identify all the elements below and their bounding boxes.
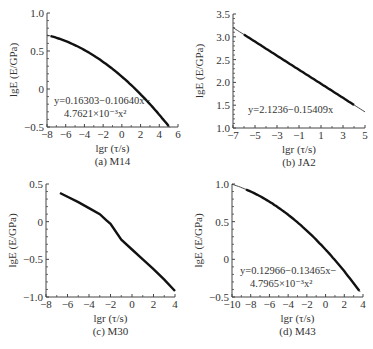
x-tick-label: −8 — [245, 298, 257, 310]
y-tick-label: −0.5 — [209, 291, 229, 303]
x-tick-label: 0 — [119, 128, 125, 140]
y-tick-label: 1.0 — [215, 178, 229, 190]
x-tick-label: 4 — [360, 298, 366, 310]
y-tick-label: 1.0 — [216, 122, 230, 134]
y-tick-label: 0.5 — [29, 178, 43, 190]
x-axis-label: lgr (τ/s) — [282, 143, 316, 156]
y-tick-label: 2.5 — [216, 54, 230, 66]
y-tick-label: 0 — [39, 83, 45, 95]
x-tick-label: −2 — [105, 298, 117, 310]
y-tick-label: 3.5 — [216, 8, 230, 20]
y-tick-label: 0 — [224, 253, 230, 265]
x-tick-label: 6 — [175, 128, 181, 140]
x-tick-label: 3 — [340, 129, 346, 141]
x-tick-label: −4 — [83, 298, 95, 310]
panel-caption: (c) M30 — [93, 325, 129, 338]
y-tick-label: 0 — [38, 216, 44, 228]
x-tick-label: 4 — [172, 298, 178, 310]
panel-caption: (d) M43 — [279, 325, 316, 338]
y-axis-label: lgE (E/GPa) — [6, 213, 19, 267]
x-tick-label: −6 — [62, 298, 74, 310]
x-tick-label: −1 — [293, 129, 305, 141]
panel-b: −7−5−3−11351.01.52.02.53.03.5y=2.1236−0.… — [193, 8, 368, 169]
x-tick-label: 4 — [157, 128, 163, 140]
panel-caption: (b) JA2 — [282, 156, 315, 169]
panel-c: −8−6−4−2024−1.0−0.500.5lgr (τ/s)(c) M30l… — [6, 178, 178, 338]
fit-equation: y=0.12966−0.13465x− — [240, 265, 337, 276]
x-tick-label: 5 — [362, 129, 368, 141]
x-tick-label: 2 — [151, 298, 157, 310]
y-tick-label: 1.5 — [216, 99, 230, 111]
x-tick-label: −2 — [301, 298, 313, 310]
x-tick-label: 1 — [318, 129, 324, 141]
data-series — [244, 35, 354, 105]
x-tick-label: −3 — [271, 129, 283, 141]
x-tick-label: −5 — [249, 129, 261, 141]
x-tick-label: −4 — [282, 298, 294, 310]
data-series — [60, 193, 175, 291]
panel-a: −8−6−4−20246−0.500.51.0y=0.16303−0.10640… — [7, 7, 181, 168]
y-tick-label: 0.5 — [30, 45, 44, 57]
y-tick-label: 1.0 — [30, 7, 44, 19]
x-axis-label: lgr (τ/s) — [280, 312, 314, 325]
x-tick-label: 0 — [129, 298, 135, 310]
x-tick-label: −6 — [264, 298, 276, 310]
y-tick-label: −1.0 — [23, 291, 43, 303]
fit-equation: y=2.1236−0.15409x — [248, 104, 334, 115]
x-tick-label: 0 — [323, 298, 329, 310]
y-tick-label: 0.5 — [215, 216, 229, 228]
y-tick-label: 2.0 — [216, 76, 230, 88]
fit-equation: y=0.16303−0.10640x− — [54, 95, 151, 106]
y-tick-label: −0.5 — [24, 121, 44, 133]
x-tick-label: 2 — [342, 298, 348, 310]
x-tick-label: −2 — [97, 128, 109, 140]
x-axis-label: lgr (τ/s) — [95, 142, 129, 155]
y-tick-label: −0.5 — [23, 253, 43, 265]
y-axis-label: lgE (E/GPa) — [192, 213, 205, 267]
y-axis-label: lgE (E/GPa) — [193, 44, 206, 98]
x-tick-label: −4 — [79, 128, 91, 140]
x-axis-label: lgr (τ/s) — [93, 312, 127, 325]
fit-equation: 4.7621×10⁻³x² — [64, 108, 126, 119]
fit-equation: 4.7965×10⁻³x² — [250, 278, 312, 289]
x-tick-label: 2 — [138, 128, 144, 140]
y-tick-label: 3.0 — [216, 31, 230, 43]
x-tick-label: −6 — [60, 128, 72, 140]
y-axis-label: lgE (E/GPa) — [7, 43, 20, 97]
figure-four-panel-chart: −8−6−4−20246−0.500.51.0y=0.16303−0.10640… — [0, 0, 373, 349]
panel-caption: (a) M14 — [95, 155, 131, 168]
panel-d: −10−8−6−4−2024−0.500.51.0y=0.12966−0.134… — [192, 178, 366, 338]
